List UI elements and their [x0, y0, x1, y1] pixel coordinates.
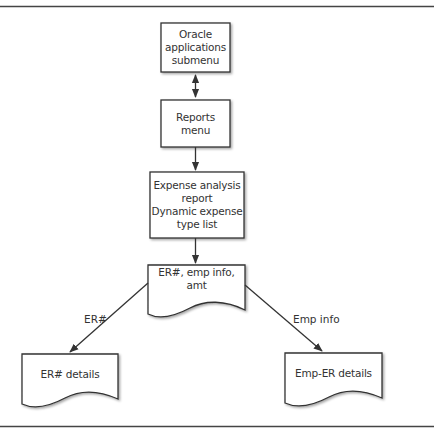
node-label-line: Emp-ER details: [295, 367, 372, 380]
node-label-line: Reports menu: [161, 111, 230, 137]
node-label-line: Dynamic expense: [152, 205, 243, 218]
edge-doc-er-details: [70, 283, 148, 352]
node-label-line: type list: [177, 218, 217, 231]
node-label-line: applications: [165, 41, 226, 54]
edge-label-er: ER#: [84, 313, 107, 325]
node-oracle-submenu: Oracle applications submenu: [161, 23, 230, 72]
edge-label-emp-info: Emp info: [293, 313, 340, 325]
node-label-line: ER#, emp info, amt: [148, 266, 245, 292]
node-er-emp-amt: ER#, emp info, amt: [148, 269, 245, 289]
node-reports-menu: Reports menu: [161, 100, 230, 147]
node-er-details: ER# details: [22, 364, 118, 384]
node-expense-report: Expense analysis report Dynamic expense …: [150, 172, 244, 238]
node-label-line: Expense analysis: [153, 179, 240, 192]
node-label-line: submenu: [172, 54, 219, 67]
node-label-line: ER# details: [41, 368, 100, 381]
node-emp-er-details: Emp-ER details: [285, 363, 382, 383]
node-label-line: Oracle: [179, 28, 212, 41]
node-label-line: report: [182, 192, 213, 205]
